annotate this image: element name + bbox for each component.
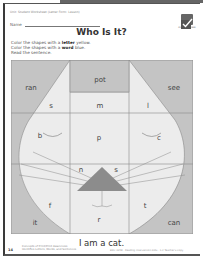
- cell-letter-c[interactable]: c: [157, 134, 161, 142]
- cell-letter-f[interactable]: f: [49, 202, 51, 210]
- cell-word-see[interactable]: see: [168, 84, 180, 92]
- footer-concept: Concepts of Print/Print Awareness Identi…: [22, 245, 76, 252]
- cell-letter-t[interactable]: t: [144, 202, 147, 210]
- page-title: Who Is It?: [0, 27, 203, 37]
- cell-word-ran[interactable]: ran: [25, 84, 37, 92]
- cell-word-can[interactable]: can: [168, 219, 181, 227]
- cell-word-it[interactable]: it: [33, 219, 38, 227]
- pencil-check-icon: [181, 14, 193, 25]
- unit-line: Unit: Student Worksheet (Letter Form: Le…: [10, 10, 80, 14]
- cell-letter-n[interactable]: n: [79, 166, 83, 174]
- top-border: [60, 0, 203, 3]
- cell-letter-m[interactable]: m: [97, 102, 104, 110]
- cell-word-pot[interactable]: pot: [94, 76, 105, 84]
- cell-letter-l[interactable]: l: [147, 102, 149, 110]
- cell-letter-b[interactable]: b: [38, 132, 42, 140]
- cell-letter-s[interactable]: s: [49, 102, 53, 110]
- cat-puzzle: ran pot see s m l b p c n s f t r it can: [11, 60, 193, 234]
- footer-publisher: EMC 3358 · Reading Intervention Kids · 1…: [110, 249, 183, 252]
- cell-letter-r[interactable]: r: [98, 216, 101, 224]
- cell-letter-p[interactable]: p: [97, 134, 101, 142]
- page-number: 14: [8, 248, 13, 252]
- instructions: Color the shapes with a letter yellow. C…: [11, 40, 91, 55]
- cell-letter-s2[interactable]: s: [114, 166, 118, 174]
- instruction-3: Read the sentence.: [11, 50, 91, 55]
